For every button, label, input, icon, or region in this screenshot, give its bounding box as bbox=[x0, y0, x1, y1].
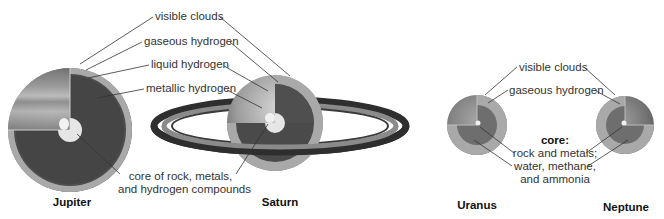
label-visible-clouds-jovian: visible clouds bbox=[155, 10, 223, 23]
label-jovian-core: core of rock, metals, and hydrogen compo… bbox=[118, 170, 243, 196]
jupiter-cutaway bbox=[8, 68, 132, 192]
label-ice-core: core: rock and metals; water, methane, a… bbox=[505, 134, 605, 186]
label-metallic-hydrogen: metallic hydrogen bbox=[146, 82, 236, 95]
planet-interiors-diagram: visible clouds gaseous hydrogen liquid h… bbox=[0, 0, 664, 219]
label-gaseous-hydrogen-jovian: gaseous hydrogen bbox=[144, 35, 239, 48]
planet-name-jupiter: Jupiter bbox=[53, 196, 91, 208]
planet-name-uranus: Uranus bbox=[457, 199, 497, 211]
label-jovian-core-line1: core of rock, metals, bbox=[118, 170, 243, 183]
label-liquid-hydrogen: liquid hydrogen bbox=[151, 58, 229, 71]
uranus-cutaway bbox=[447, 95, 507, 155]
planet-name-neptune: Neptune bbox=[603, 201, 649, 213]
label-ice-core-title: core: bbox=[505, 134, 605, 147]
label-jovian-core-line2: and hydrogen compounds bbox=[118, 183, 243, 196]
label-ice-core-line1: rock and metals; bbox=[505, 147, 605, 160]
diagram-graphics bbox=[0, 0, 664, 219]
label-gaseous-hydrogen-ice: gaseous hydrogen bbox=[509, 84, 604, 97]
label-visible-clouds-ice: visible clouds bbox=[519, 61, 587, 74]
label-ice-core-line3: and ammonia bbox=[505, 173, 605, 186]
label-ice-core-line2: water, methane, bbox=[505, 160, 605, 173]
planet-name-saturn: Saturn bbox=[262, 196, 298, 208]
